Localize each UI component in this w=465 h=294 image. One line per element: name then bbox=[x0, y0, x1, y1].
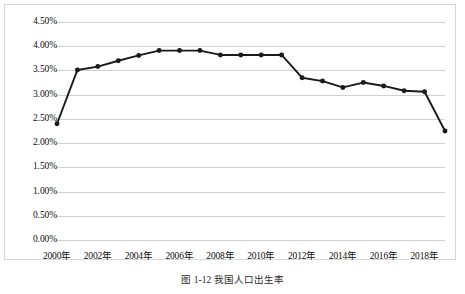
data-point bbox=[136, 53, 141, 58]
data-point bbox=[381, 83, 386, 88]
data-point bbox=[177, 48, 182, 53]
y-axis-tick-label: 2.50% bbox=[3, 114, 57, 124]
data-point bbox=[279, 52, 284, 57]
y-axis-tick-label: 2.00% bbox=[3, 138, 57, 148]
y-axis-tick-label: 3.50% bbox=[3, 65, 57, 75]
x-axis-tick-label: 2016年 bbox=[370, 252, 398, 262]
data-point bbox=[340, 85, 345, 90]
y-axis-labels: 4.50%4.00%3.50%3.00%2.50%2.00%1.50%1.00%… bbox=[0, 0, 57, 294]
data-point bbox=[55, 121, 60, 126]
data-point bbox=[157, 48, 162, 53]
data-point bbox=[95, 64, 100, 69]
data-point bbox=[197, 48, 202, 53]
data-point bbox=[361, 80, 366, 85]
x-axis-tick-label: 2004年 bbox=[125, 252, 153, 262]
series-line-birth-rate bbox=[57, 22, 445, 240]
x-axis-tick-label: 2002年 bbox=[84, 252, 112, 262]
data-point bbox=[300, 75, 305, 80]
x-axis-labels: 2000年2002年2004年2006年2008年2010年2012年2014年… bbox=[57, 252, 445, 268]
data-point bbox=[238, 52, 243, 57]
y-axis-tick-label: 1.00% bbox=[3, 187, 57, 197]
data-point bbox=[259, 52, 264, 57]
x-axis-tick-label: 2018年 bbox=[411, 252, 439, 262]
x-axis-tick-label: 2006年 bbox=[166, 252, 194, 262]
data-point bbox=[75, 67, 80, 72]
data-point bbox=[116, 58, 121, 63]
y-axis-tick-label: 0.00% bbox=[3, 235, 57, 245]
data-point bbox=[218, 52, 223, 57]
data-point bbox=[402, 88, 407, 93]
plot-area bbox=[57, 22, 445, 240]
data-point bbox=[320, 79, 325, 84]
x-axis-tick-label: 2014年 bbox=[329, 252, 357, 262]
data-line bbox=[57, 51, 445, 131]
y-axis-tick-label: 4.00% bbox=[3, 41, 57, 51]
y-axis-tick-label: 1.50% bbox=[3, 162, 57, 172]
data-point bbox=[443, 129, 448, 134]
y-axis-tick-label: 4.50% bbox=[3, 17, 57, 27]
x-axis-tick-label: 2008年 bbox=[206, 252, 234, 262]
x-axis-tick-label: 2012年 bbox=[288, 252, 316, 262]
x-axis-tick-label: 2000年 bbox=[43, 252, 71, 262]
data-point bbox=[422, 89, 427, 94]
gridline bbox=[57, 240, 445, 241]
y-axis-tick-label: 3.00% bbox=[3, 90, 57, 100]
x-axis-tick-label: 2010年 bbox=[247, 252, 275, 262]
figure-caption: 图 1-12 我国人口出生率 bbox=[0, 272, 465, 286]
y-axis-tick-label: 0.50% bbox=[3, 211, 57, 221]
figure-container: 4.50%4.00%3.50%3.00%2.50%2.00%1.50%1.00%… bbox=[0, 0, 465, 294]
